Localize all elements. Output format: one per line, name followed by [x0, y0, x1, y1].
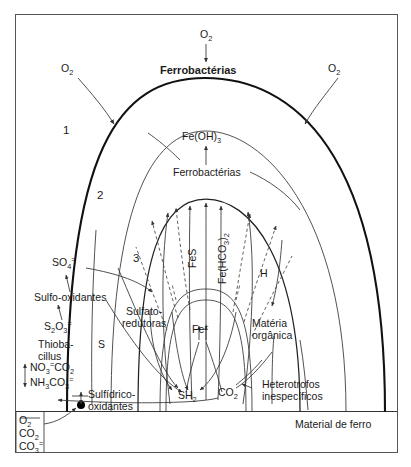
figure-frame [16, 15, 398, 453]
ferrobacterias-leader-right [250, 172, 300, 210]
sulfato-redutoras-line1: Sulfato- [126, 305, 163, 317]
diffusion-tick-1 [172, 284, 176, 300]
sulfidrico-oxidantes-line1: Sulfídrico- [88, 388, 136, 400]
elemental-sulfur-label: S [98, 338, 105, 350]
thiosulfate-ion-label: S2O3= [44, 319, 72, 334]
hydrogen-label: H [260, 267, 268, 279]
sh2-to-fe-a [186, 342, 199, 392]
ferrobacterias-inner-label: Ferrobactérias [173, 166, 241, 178]
carbon-dioxide-label: CO2 [218, 386, 238, 401]
sulfidrico-oxidantes-line2: oxidantes [88, 400, 133, 412]
o2-left-label: O2 [61, 62, 73, 77]
sulfato-redutoras-line2: redutoras [122, 317, 166, 329]
materia-organica-line2: orgânica [252, 329, 292, 341]
thiobacillus-label-line1: Thioba- [38, 338, 74, 350]
thiobacillus-boundary [92, 230, 96, 404]
zone-2-number: 2 [97, 189, 103, 201]
diagram-canvas: O2 Ferrobactérias O2 O2 1 2 3 Fe(OH)3 Fe… [0, 0, 411, 467]
co2-arrow [242, 384, 252, 388]
o2-right-arrow [305, 78, 338, 124]
so4-to-sulfato-redutoras [86, 268, 152, 292]
s2o3-arrow [58, 305, 62, 320]
ferrobacterias-leader-left [148, 133, 180, 160]
ground-label: Material de ferro [295, 418, 372, 430]
heterotrofos-line1: Heterotrofos [262, 378, 320, 390]
heterotrofos-to-co2 [236, 360, 262, 385]
corner-to-dot-arrow [44, 408, 76, 424]
title-ferrobacterias: Ferrobactérias [160, 64, 236, 76]
o2-right-label: O2 [328, 62, 340, 77]
fe-oh3-label: Fe(OH)3 [182, 130, 221, 145]
flow-fe-hco3 [218, 206, 221, 400]
flow-left-inner [163, 213, 170, 404]
zone-3-number: 3 [133, 252, 139, 264]
o2-left-arrow [78, 78, 114, 124]
fes-label: FeS [186, 249, 198, 268]
zone-1-number: 1 [63, 124, 69, 136]
o2-top-label: O2 [200, 28, 212, 43]
diffusion-arrow-3 [233, 214, 250, 312]
sulfo-oxidantes-label: Sulfo-oxidantes [34, 291, 106, 303]
heterotrofos-line2: inespecíficos [262, 390, 323, 402]
sulfate-ion-label: SO4= [52, 255, 76, 270]
materia-organica-line1: Matéria [252, 317, 287, 329]
so4-arrow [66, 275, 70, 292]
corrosion-diagram: O2 Ferrobactérias O2 O2 1 2 3 Fe(OH)3 Fe… [0, 0, 411, 467]
sulfato-redutoras-to-sh2-b [172, 312, 188, 390]
fe-hco3-label: Fe(HCO3)2 [216, 233, 231, 284]
